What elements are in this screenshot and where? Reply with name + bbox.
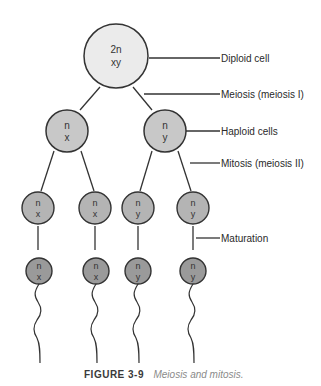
sperm-ploidy: n bbox=[190, 261, 195, 271]
connector-haploid-y-spermatid-3 bbox=[140, 151, 152, 191]
spermatid-circle bbox=[177, 192, 209, 224]
connector-haploid-y-spermatid-4 bbox=[178, 151, 191, 191]
sperm-ploidy: n bbox=[93, 261, 98, 271]
spermatid-ploidy: n bbox=[92, 198, 97, 208]
spermatid-chromosome: y bbox=[136, 209, 141, 219]
haploid-cell-circle bbox=[144, 110, 186, 152]
sperm-3: n y bbox=[125, 258, 151, 284]
spermatid-circle bbox=[79, 192, 111, 224]
sperm-chromosome: x bbox=[37, 272, 42, 282]
spermatid-4: n y bbox=[177, 192, 209, 224]
connector-haploid-x-spermatid-2 bbox=[81, 151, 94, 191]
diploid-chromosomes: xy bbox=[111, 57, 121, 68]
spermatid-circle bbox=[122, 192, 154, 224]
sperm-tail bbox=[188, 284, 195, 363]
diploid-cell-circle bbox=[84, 24, 148, 88]
sperm-2: n x bbox=[83, 258, 109, 284]
sperm-ploidy: n bbox=[36, 261, 41, 271]
haploid-ploidy: n bbox=[162, 120, 168, 131]
haploid-ploidy: n bbox=[64, 120, 70, 131]
sperm-tail bbox=[133, 284, 140, 363]
haploid-chromosome: x bbox=[65, 132, 70, 143]
spermatid-ploidy: n bbox=[190, 198, 195, 208]
diploid-cell: 2n xy bbox=[84, 24, 148, 88]
connector-haploid-x-spermatid-1 bbox=[41, 151, 54, 191]
spermatid-chromosome: x bbox=[36, 209, 41, 219]
spermatid-2: n x bbox=[79, 192, 111, 224]
label-meiosis: Meiosis (meiosis I) bbox=[221, 89, 304, 100]
label-haploid-cells: Haploid cells bbox=[221, 126, 278, 137]
label-diploid-cell: Diploid cell bbox=[221, 53, 269, 64]
sperm-4: n y bbox=[180, 258, 206, 284]
sperm-ploidy: n bbox=[135, 261, 140, 271]
spermatid-3: n y bbox=[122, 192, 154, 224]
sperm-chromosome: y bbox=[136, 272, 141, 282]
sperm-1: n x bbox=[26, 258, 52, 284]
meiosis-diagram: 2n xy n x n y n x n x n y n y n x bbox=[0, 0, 321, 386]
spermatid-ploidy: n bbox=[135, 198, 140, 208]
spermatid-1: n x bbox=[22, 192, 54, 224]
caption-label: FIGURE 3-9 bbox=[84, 369, 144, 380]
spermatid-ploidy: n bbox=[35, 198, 40, 208]
sperm-chromosome: y bbox=[191, 272, 196, 282]
figure-caption: FIGURE 3-9 Meiosis and mitosis. bbox=[84, 364, 244, 381]
spermatid-chromosome: y bbox=[191, 209, 196, 219]
haploid-cell-y: n y bbox=[144, 110, 186, 152]
connector-diploid-haploid-y bbox=[133, 87, 152, 110]
caption-text: Meiosis and mitosis. bbox=[153, 369, 243, 380]
label-maturation: Maturation bbox=[221, 233, 268, 244]
haploid-chromosome: y bbox=[163, 132, 168, 143]
connector-diploid-haploid-x bbox=[80, 87, 100, 110]
diploid-ploidy: 2n bbox=[110, 44, 121, 55]
haploid-cell-circle bbox=[46, 110, 88, 152]
sperm-tail bbox=[91, 284, 98, 363]
sperm-tail bbox=[34, 284, 41, 363]
spermatid-chromosome: x bbox=[93, 209, 98, 219]
spermatid-circle bbox=[22, 192, 54, 224]
sperm-chromosome: x bbox=[94, 272, 99, 282]
haploid-cell-x: n x bbox=[46, 110, 88, 152]
label-mitosis: Mitosis (meiosis II) bbox=[221, 158, 304, 169]
